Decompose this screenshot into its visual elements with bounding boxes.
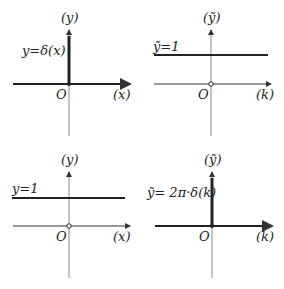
fourier-pair-diagram: (y) y=δ(x) O (x) (ỹ) ỹ=1 O (k) (y) y=1 O…: [0, 0, 284, 289]
origin-circle: [209, 82, 213, 86]
origin-dot: [67, 82, 71, 86]
panel-delta-x: (y) y=δ(x) O (x): [13, 10, 130, 136]
function-label: ỹ= 2π·δ(k): [146, 185, 216, 200]
x-axis-label: (k): [256, 229, 274, 244]
x-axis-label: (k): [256, 87, 274, 102]
origin-label: O: [198, 87, 209, 102]
panel-constant-k: (ỹ) ỹ=1 O (k): [152, 10, 274, 136]
panel-constant-x: (y) y=1 O (x): [11, 152, 130, 278]
x-axis-label: (x): [113, 87, 130, 102]
origin-label: O: [56, 87, 67, 102]
y-axis-label: (ỹ): [204, 152, 222, 167]
y-axis-label: (ỹ): [203, 10, 221, 25]
function-label: y=δ(x): [21, 43, 66, 58]
y-axis-label: (y): [61, 152, 79, 167]
x-axis-label: (x): [113, 229, 130, 244]
origin-circle: [67, 224, 71, 228]
origin-dot: [210, 224, 214, 228]
y-axis-label: (y): [61, 10, 79, 25]
origin-label: O: [199, 229, 210, 244]
function-label: y=1: [11, 181, 39, 196]
panel-delta-k: (ỹ) ỹ= 2π·δ(k) O (k): [146, 152, 274, 278]
function-label: ỹ=1: [152, 39, 180, 54]
origin-label: O: [56, 229, 67, 244]
